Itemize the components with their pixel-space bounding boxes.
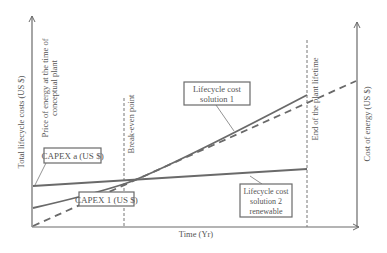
break-even-label: Break-even point bbox=[126, 94, 136, 153]
left-y-axis-label: Total lifecycle costs (US $) bbox=[16, 75, 26, 168]
capex-a-label: CAPEX a (US $) bbox=[41, 151, 103, 161]
solution-2-label-line3: renewable bbox=[250, 207, 283, 216]
lifecycle-cost-diagram: CAPEX a (US $) CAPEX 1 (US $) Lifecycle … bbox=[0, 0, 387, 253]
solution-1-callout: Lifecycle cost solution 1 bbox=[184, 82, 250, 131]
capex-a-callout: CAPEX a (US $) bbox=[35, 148, 104, 185]
capex-1-callout: CAPEX 1 (US $) bbox=[75, 192, 138, 206]
solution-2-callout: Lifecycle cost solution 2 renewable bbox=[240, 176, 292, 217]
right-y-axis-label: Cost of energy (US $) bbox=[362, 86, 372, 161]
end-of-life-label: End of the plant lifetime bbox=[310, 57, 320, 140]
x-axis-label: Time (Yr) bbox=[179, 229, 214, 239]
price-energy-label-line2: conceptual plant bbox=[49, 59, 59, 116]
solution-2-label-line1: Lifecycle cost bbox=[243, 187, 289, 196]
solution-2-label-line2: solution 2 bbox=[250, 197, 282, 206]
solution-1-label-line1: Lifecycle cost bbox=[193, 84, 242, 94]
capex-1-label: CAPEX 1 (US $) bbox=[75, 195, 138, 205]
solution-1-label-line2: solution 1 bbox=[200, 94, 234, 104]
